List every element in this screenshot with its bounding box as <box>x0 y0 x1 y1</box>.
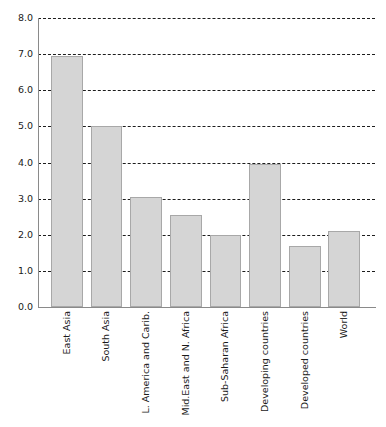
gridline <box>38 271 375 272</box>
gridline <box>38 163 375 164</box>
x-axis-category-label: Developing countries <box>260 311 270 412</box>
bar <box>210 235 242 307</box>
bar <box>51 56 83 307</box>
x-axis-category-label: South Asia <box>101 311 111 362</box>
gridline <box>38 199 375 200</box>
bar-chart: 0.01.02.03.04.05.06.07.08.0 East AsiaSou… <box>0 0 386 427</box>
bar <box>328 231 360 307</box>
x-axis-category-label: Sub-Saharan Africa <box>220 311 230 402</box>
x-axis-category-labels: East AsiaSouth AsiaL. America and Carib.… <box>38 311 378 427</box>
gridline <box>38 235 375 236</box>
x-axis-category-label: L. America and Carib. <box>141 311 151 413</box>
x-axis-category-label: Developed countries <box>300 311 310 409</box>
gridline <box>38 126 375 127</box>
gridline <box>38 90 375 91</box>
x-axis-category-label: Mid.East and N. Africa <box>181 311 191 416</box>
x-axis-category-label: East Asia <box>62 311 72 354</box>
y-axis-line <box>38 18 39 308</box>
y-axis-tick-label: 0.0 <box>3 302 33 312</box>
y-axis-tick-labels: 0.01.02.03.04.05.06.07.08.0 <box>0 0 33 427</box>
y-axis-tick-label: 2.0 <box>3 230 33 240</box>
y-axis-tick-label: 8.0 <box>3 13 33 23</box>
x-axis-line <box>38 307 376 308</box>
y-axis-tick-label: 7.0 <box>3 49 33 59</box>
gridline <box>38 18 375 19</box>
plot-area <box>38 18 375 307</box>
gridline <box>38 54 375 55</box>
y-axis-tick-label: 6.0 <box>3 85 33 95</box>
y-axis-tick-label: 5.0 <box>3 121 33 131</box>
bar <box>289 246 321 307</box>
bar <box>170 215 202 307</box>
bar <box>91 126 123 307</box>
y-axis-tick-label: 4.0 <box>3 158 33 168</box>
bar <box>130 197 162 307</box>
bar <box>249 164 281 307</box>
y-axis-tick-label: 3.0 <box>3 194 33 204</box>
x-axis-category-label: World <box>339 311 349 338</box>
y-axis-tick-label: 1.0 <box>3 266 33 276</box>
